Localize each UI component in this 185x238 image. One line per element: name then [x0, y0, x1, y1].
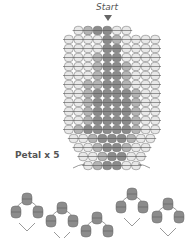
- petal-motif: [152, 198, 184, 236]
- petal-motif: [46, 202, 78, 238]
- petal-motif: [116, 188, 148, 226]
- petal-motif: [81, 212, 113, 238]
- bead-grid: [63, 26, 161, 169]
- petal-motif: [11, 193, 43, 231]
- bead-pattern-diagram: [0, 0, 185, 238]
- petal-motifs: [11, 188, 184, 238]
- thread-tail: [73, 164, 85, 168]
